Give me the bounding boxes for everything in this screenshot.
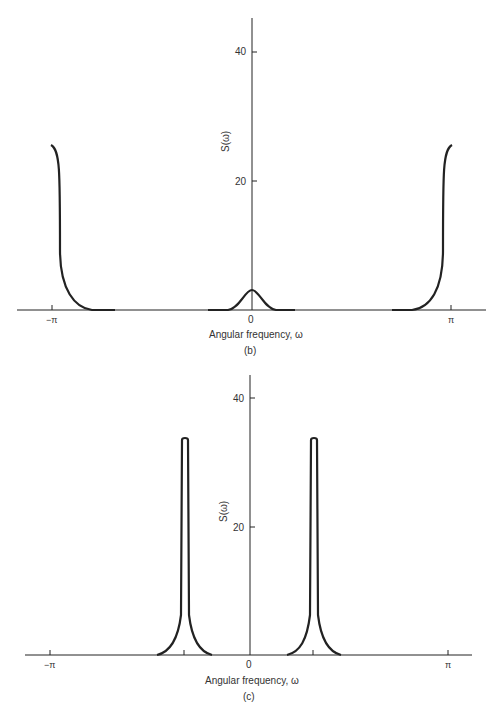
- x-axis-label: Angular frequency, ω: [205, 675, 299, 686]
- x-tick-neg-pi: −π: [46, 315, 57, 325]
- figure: 40 20 S(ω) −π 0 π Angular frequency, ω (…: [0, 0, 493, 710]
- chart-c: [25, 375, 472, 655]
- y-tick-20: 20: [233, 522, 245, 533]
- x-tick-zero: 0: [246, 659, 252, 670]
- y-tick-40: 40: [235, 46, 247, 57]
- x-tick-neg-pi: −π: [44, 660, 55, 670]
- chart-b: [17, 18, 486, 310]
- x-tick-zero: 0: [248, 314, 254, 325]
- y-axis-label: S(ω): [218, 501, 229, 522]
- y-axis-label: S(ω): [220, 131, 231, 152]
- y-tick-20: 20: [235, 176, 247, 187]
- y-tick-40: 40: [233, 393, 245, 404]
- panel-caption: (c): [243, 691, 255, 702]
- curve-c: [157, 438, 341, 655]
- panel-caption: (b): [244, 345, 256, 356]
- x-axis-label: Angular frequency, ω: [209, 329, 303, 340]
- x-tick-pi: π: [448, 315, 454, 325]
- x-tick-pi: π: [445, 660, 451, 670]
